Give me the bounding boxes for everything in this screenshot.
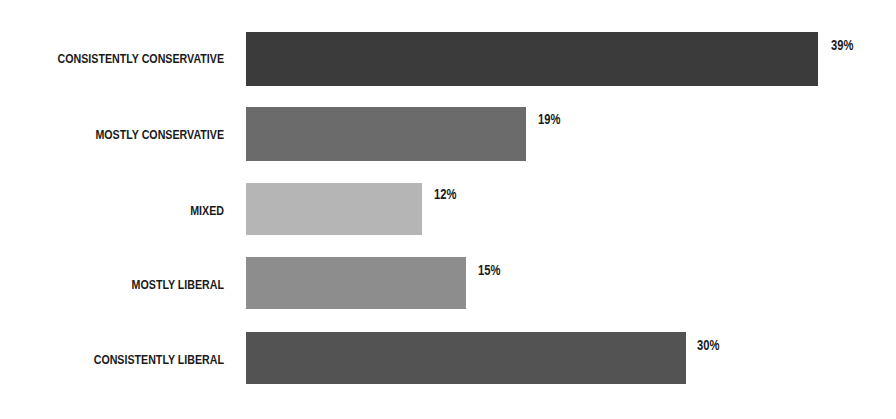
category-label: CONSISTENTLY CONSERVATIVE [27, 51, 224, 66]
value-label: 39% [831, 37, 853, 53]
value-label: 12% [434, 186, 456, 202]
bar-mostly-conservative [246, 107, 526, 161]
category-label: MIXED [27, 203, 224, 218]
value-label: 15% [478, 262, 500, 278]
bar-mostly-liberal [246, 257, 466, 309]
bar-mixed [246, 183, 422, 235]
category-label: CONSISTENTLY LIBERAL [27, 352, 224, 367]
bar-consistently-liberal [246, 332, 686, 384]
value-label: 19% [538, 111, 560, 127]
ideology-bar-chart: CONSISTENTLY CONSERVATIVE 39% MOSTLY CON… [0, 0, 896, 419]
category-label: MOSTLY LIBERAL [27, 277, 224, 292]
bar-consistently-conservative [246, 32, 818, 86]
value-label: 30% [697, 337, 719, 353]
category-label: MOSTLY CONSERVATIVE [27, 127, 224, 142]
